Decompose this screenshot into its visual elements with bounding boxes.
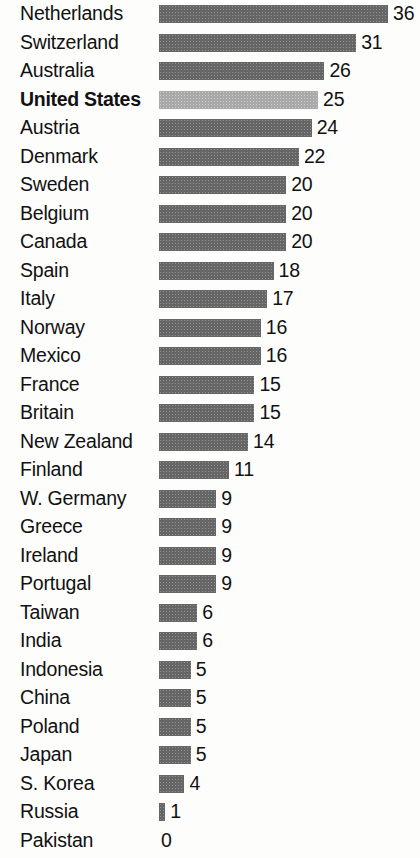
bar-row-label: Finland [20,461,83,481]
bar-row-label: S. Korea [20,774,94,794]
bar-value-label: 11 [234,461,254,481]
bar-track: 1 [159,803,420,821]
bar [159,775,184,793]
bar [159,176,286,194]
bar-row-label: Netherlands [20,5,123,25]
bar-track: 6 [159,604,420,622]
bar-row-label: Denmark [20,147,98,167]
bar-value-label: 6 [202,603,213,623]
bar-value-label: 9 [221,489,232,509]
bar [159,433,248,451]
bar-value-label: 24 [317,119,338,139]
bar-track: 5 [159,718,420,736]
bar-row-label: France [20,375,80,395]
bar [159,404,254,422]
bar-track: 20 [159,205,420,223]
bar [159,547,216,565]
bar-row-label: Greece [20,518,83,538]
bar-value-label: 18 [279,261,300,281]
bar-chart-row: Denmark22 [0,143,420,172]
bar-row-label: Italy [20,290,55,310]
bar-chart-row: Italy17 [0,285,420,314]
bar-row-label: Belgium [20,204,89,224]
bar-chart-row: Portugal9 [0,570,420,599]
bar-value-label: 15 [259,404,280,424]
bar-chart-rows: Netherlands36Switzerland31Australia26Uni… [0,0,420,855]
bar-chart-row: China5 [0,684,420,713]
bar-row-label: Spain [20,261,69,281]
bar-track: 22 [159,148,420,166]
bar-track: 6 [159,632,420,650]
bar-track: 5 [159,746,420,764]
bar-chart-row: Greece9 [0,513,420,542]
bar-row-label: Poland [20,717,80,737]
bar [159,62,324,80]
bar [159,5,388,23]
bar-chart-row: Mexico16 [0,342,420,371]
bar-row-label: W. Germany [20,489,126,509]
bar-value-label: 9 [221,518,232,538]
bar-row-label: Austria [20,119,79,139]
bar [159,91,318,109]
bar [159,718,191,736]
bar-track: 9 [159,547,420,565]
bar-chart-row: Switzerland31 [0,29,420,58]
bar-chart-row: Norway16 [0,314,420,343]
bar-track: 5 [159,661,420,679]
bar-row-label: Norway [20,318,85,338]
bar-value-label: 1 [170,803,181,823]
bar-row-label: Australia [20,62,94,82]
bar-chart-row: Australia26 [0,57,420,86]
bar-track: 15 [159,404,420,422]
bar-row-label: Ireland [20,546,78,566]
bar-chart-row: Sweden20 [0,171,420,200]
bar [159,233,286,251]
bar [159,604,197,622]
bar-chart-row: India6 [0,627,420,656]
bar-value-label: 4 [189,774,200,794]
bar-track: 24 [159,119,420,137]
bar-value-label: 9 [221,575,232,595]
bar-track: 14 [159,433,420,451]
bar-value-label: 9 [221,546,232,566]
bar-row-label: Canada [20,233,87,253]
bar-chart-row: United States25 [0,86,420,115]
bar [159,575,216,593]
bar-value-label: 0 [161,831,172,851]
bar-track: 9 [159,490,420,508]
bar [159,205,286,223]
bar-chart-row: Britain15 [0,399,420,428]
bar-value-label: 5 [196,746,207,766]
bar [159,689,191,707]
bar-track: 4 [159,775,420,793]
bar-track: 17 [159,290,420,308]
bar-row-label: Russia [20,803,78,823]
bar-value-label: 26 [329,62,350,82]
bar-value-label: 20 [291,233,312,253]
bar-row-label: India [20,632,61,652]
bar-track: 16 [159,347,420,365]
bar-track: 15 [159,376,420,394]
bar-chart-row: Ireland9 [0,542,420,571]
bar-chart-row: S. Korea4 [0,770,420,799]
bar-track: 16 [159,319,420,337]
bar-chart-row: Spain18 [0,257,420,286]
bar-value-label: 20 [291,176,312,196]
bar-track: 26 [159,62,420,80]
bar-track: 20 [159,176,420,194]
bar-chart-row: France15 [0,371,420,400]
bar-row-label: Britain [20,404,74,424]
bar [159,319,261,337]
bar-track: 0 [159,832,420,850]
bar-chart-row: New Zealand14 [0,428,420,457]
bar-row-label: Japan [20,746,72,766]
bar-value-label: 5 [196,689,207,709]
bar-value-label: 17 [272,290,293,310]
bar-row-label: Taiwan [20,603,80,623]
bar [159,461,229,479]
bar-track: 18 [159,262,420,280]
bar-row-label: Portugal [20,575,91,595]
bar-value-label: 5 [196,660,207,680]
bar-track: 11 [159,461,420,479]
bar-chart-row: Canada20 [0,228,420,257]
